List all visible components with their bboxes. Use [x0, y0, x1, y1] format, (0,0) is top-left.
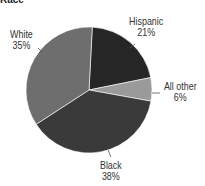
label-hispanic: Hispanic 21% [129, 16, 163, 38]
label-pct: 21% [129, 27, 163, 38]
label-all-other: All other 6% [164, 81, 197, 103]
label-white: White 35% [10, 29, 33, 51]
label-pct: 35% [10, 40, 33, 51]
label-pct: 38% [100, 171, 122, 182]
label-pct: 6% [164, 92, 197, 103]
leader-black [108, 150, 111, 157]
label-black: Black 38% [100, 160, 122, 182]
